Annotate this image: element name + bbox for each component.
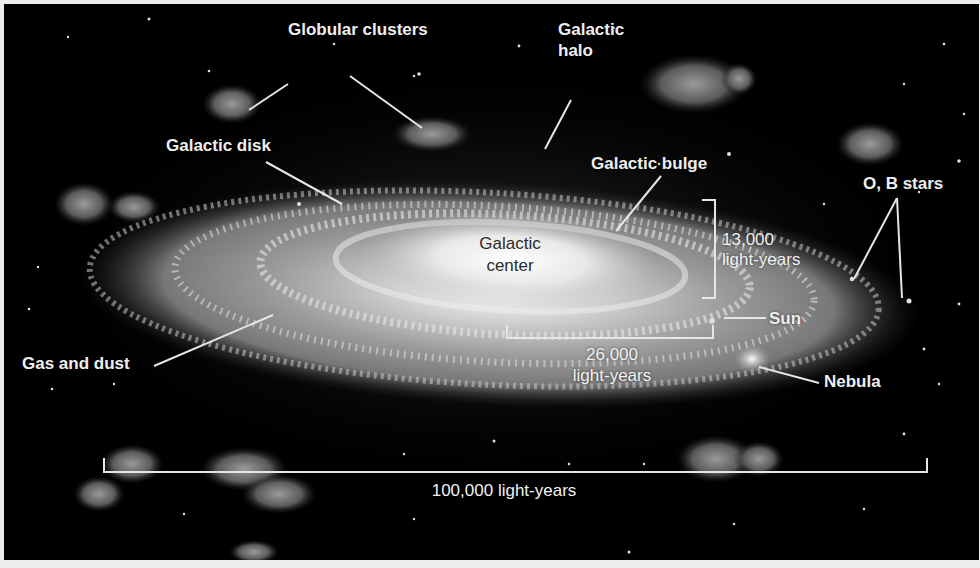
label-globular-clusters: Globular clusters: [288, 20, 428, 40]
sun-distance-unit: light-years: [552, 366, 672, 386]
label-nebula: Nebula: [824, 372, 881, 392]
bulge-thickness-value: 13,000: [722, 230, 774, 250]
label-galactic-halo-line1: Galactic: [558, 20, 624, 40]
galaxy-illustration: Globular clusters Galactic halo Galactic…: [4, 4, 979, 560]
label-galactic-bulge: Galactic bulge: [591, 154, 707, 174]
label-sun: Sun: [769, 309, 801, 329]
galaxy-artwork: [4, 4, 979, 560]
label-galactic-disk: Galactic disk: [166, 136, 271, 156]
galaxy-diameter-label: 100,000 light-years: [384, 481, 624, 501]
label-galactic-center-line1: Galactic: [460, 234, 560, 254]
diagram-frame: Globular clusters Galactic halo Galactic…: [0, 0, 980, 568]
label-gas-and-dust: Gas and dust: [22, 354, 130, 374]
label-ob-stars: O, B stars: [863, 174, 943, 194]
label-galactic-halo-line2: halo: [558, 41, 593, 61]
label-galactic-center-line2: center: [460, 256, 560, 276]
bulge-thickness-unit: light-years: [722, 250, 800, 270]
sun-distance-value: 26,000: [552, 345, 672, 365]
